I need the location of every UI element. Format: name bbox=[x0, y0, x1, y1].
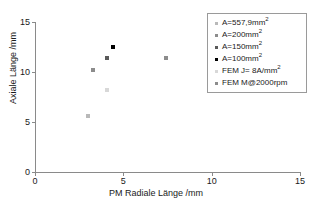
x-tick-label: 10 bbox=[207, 176, 217, 186]
data-point bbox=[111, 45, 115, 49]
legend-item[interactable]: A=100mm2 bbox=[211, 53, 304, 65]
legend-item-label: FEM J= 8A/mm2 bbox=[222, 66, 281, 76]
y-tick bbox=[32, 22, 36, 23]
legend-item[interactable]: FEM M@2000rpm bbox=[211, 77, 304, 89]
legend-item-label: A=100mm2 bbox=[222, 54, 262, 64]
legend-item-label: A=150mm2 bbox=[222, 42, 262, 52]
x-tick-label: 15 bbox=[295, 176, 305, 186]
legend-marker-icon bbox=[211, 58, 222, 61]
x-axis-line bbox=[35, 172, 300, 173]
y-tick bbox=[32, 122, 36, 123]
y-tick bbox=[32, 72, 36, 73]
legend-item[interactable]: A=557,9mm2 bbox=[211, 17, 304, 29]
legend-marker-icon bbox=[211, 70, 222, 73]
legend-item[interactable]: A=150mm2 bbox=[211, 41, 304, 53]
data-point bbox=[164, 56, 168, 60]
x-tick-label: 0 bbox=[32, 176, 37, 186]
y-axis-title: Axiale Länge /mm bbox=[8, 0, 18, 143]
legend-marker-icon bbox=[211, 82, 222, 85]
x-axis-title: PM Radiale Länge /mm bbox=[0, 188, 312, 198]
scatter-chart-figure: 051015051015 Axiale Länge /mm PM Radiale… bbox=[0, 0, 312, 207]
x-tick-label: 5 bbox=[121, 176, 126, 186]
y-axis-line bbox=[35, 22, 36, 172]
y-tick-label: 15 bbox=[20, 17, 30, 27]
legend-item-label: A=557,9mm2 bbox=[222, 18, 269, 28]
legend-marker-icon bbox=[211, 34, 222, 37]
legend-item-label: FEM M@2000rpm bbox=[222, 78, 287, 88]
data-point bbox=[86, 114, 90, 118]
data-point bbox=[105, 56, 109, 60]
data-point bbox=[91, 68, 95, 72]
data-point bbox=[105, 88, 109, 92]
legend-item[interactable]: A=200mm2 bbox=[211, 29, 304, 41]
legend-marker-icon bbox=[211, 46, 222, 49]
y-tick-label: 10 bbox=[20, 67, 30, 77]
legend-marker-icon bbox=[211, 22, 222, 25]
y-tick-label: 0 bbox=[25, 167, 30, 177]
legend-item-label: A=200mm2 bbox=[222, 30, 262, 40]
chart-legend: A=557,9mm2A=200mm2A=150mm2A=100mm2FEM J=… bbox=[207, 13, 307, 93]
legend-item[interactable]: FEM J= 8A/mm2 bbox=[211, 65, 304, 77]
y-tick-label: 5 bbox=[25, 117, 30, 127]
